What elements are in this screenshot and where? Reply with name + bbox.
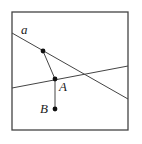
point-on-a xyxy=(41,49,46,54)
label-point-A: A xyxy=(58,79,67,94)
point-A xyxy=(53,77,58,82)
label-line-a: a xyxy=(21,22,28,37)
point-B xyxy=(53,107,58,112)
label-point-B: B xyxy=(40,101,48,116)
line-second xyxy=(12,66,128,88)
segment-p-to-A xyxy=(43,51,55,79)
diagram-frame xyxy=(12,12,128,130)
geometry-diagram: a A B xyxy=(0,0,142,144)
line-a xyxy=(12,33,128,99)
